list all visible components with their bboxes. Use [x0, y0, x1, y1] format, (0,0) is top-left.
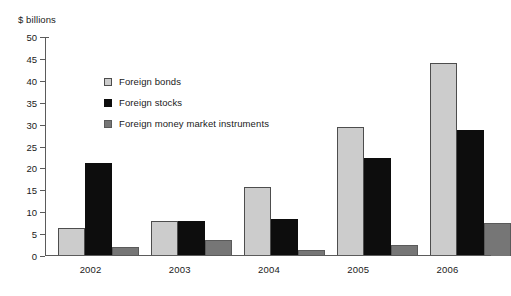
- y-tick-mark: [40, 81, 45, 82]
- y-tick-mark: [40, 168, 45, 169]
- legend-label: Foreign stocks: [119, 97, 182, 108]
- bar-group-bars: [337, 37, 418, 256]
- chart-legend: Foreign bondsForeign stocksForeign money…: [104, 76, 269, 139]
- bar-group-bars: [58, 37, 139, 256]
- bar-group-bars: [244, 37, 325, 256]
- bar[interactable]: [271, 219, 298, 256]
- x-tick-label: 2002: [46, 264, 135, 275]
- legend-swatch-icon: [104, 78, 112, 86]
- y-tick-mark: [40, 234, 45, 235]
- bar[interactable]: [178, 221, 205, 256]
- legend-item[interactable]: Foreign money market instruments: [104, 118, 269, 129]
- x-axis-tick-labels: 20022003200420052006: [46, 264, 492, 275]
- bar[interactable]: [85, 163, 112, 256]
- y-tick-label: 25: [13, 141, 37, 152]
- bar[interactable]: [244, 187, 271, 256]
- bar-group: [46, 37, 139, 256]
- plot-area: 05101520253035404550: [45, 37, 491, 256]
- legend-item[interactable]: Foreign bonds: [104, 76, 269, 87]
- bar-group-bars: [151, 37, 232, 256]
- legend-item[interactable]: Foreign stocks: [104, 97, 269, 108]
- x-axis: [45, 255, 491, 256]
- x-tick-label: 2005: [314, 264, 403, 275]
- y-tick-mark: [40, 256, 45, 257]
- legend-label: Foreign bonds: [119, 76, 181, 87]
- y-tick-label: 30: [13, 119, 37, 130]
- bar[interactable]: [457, 130, 484, 256]
- y-tick-mark: [40, 125, 45, 126]
- y-tick-label: 20: [13, 163, 37, 174]
- x-tick-label: 2003: [135, 264, 224, 275]
- x-tick-label: 2006: [403, 264, 492, 275]
- bar-group: [418, 37, 511, 256]
- legend-swatch-icon: [104, 99, 112, 107]
- bar[interactable]: [337, 127, 364, 256]
- bar-groups: [46, 37, 491, 256]
- y-tick-label: 5: [13, 229, 37, 240]
- y-tick-label: 40: [13, 75, 37, 86]
- y-tick-label: 0: [13, 251, 37, 262]
- y-tick-label: 50: [13, 32, 37, 43]
- y-tick-mark: [40, 59, 45, 60]
- y-axis-unit-label: $ billions: [18, 14, 56, 25]
- y-tick-mark: [40, 37, 45, 38]
- bar[interactable]: [484, 223, 511, 256]
- y-tick-label: 35: [13, 97, 37, 108]
- y-tick-mark: [40, 147, 45, 148]
- bar-group: [139, 37, 232, 256]
- y-tick-mark: [40, 103, 45, 104]
- bar[interactable]: [151, 221, 178, 256]
- y-tick-label: 15: [13, 185, 37, 196]
- bar[interactable]: [430, 63, 457, 256]
- legend-swatch-icon: [104, 120, 112, 128]
- bar-group: [232, 37, 325, 256]
- y-tick-label: 45: [13, 53, 37, 64]
- bar[interactable]: [205, 240, 232, 256]
- bar[interactable]: [58, 228, 85, 256]
- y-tick-mark: [40, 190, 45, 191]
- legend-label: Foreign money market instruments: [119, 118, 269, 129]
- bar-group: [325, 37, 418, 256]
- y-tick-label: 10: [13, 207, 37, 218]
- x-tick-label: 2004: [224, 264, 313, 275]
- y-tick-mark: [40, 212, 45, 213]
- bar[interactable]: [364, 158, 391, 256]
- bar-group-bars: [430, 37, 511, 256]
